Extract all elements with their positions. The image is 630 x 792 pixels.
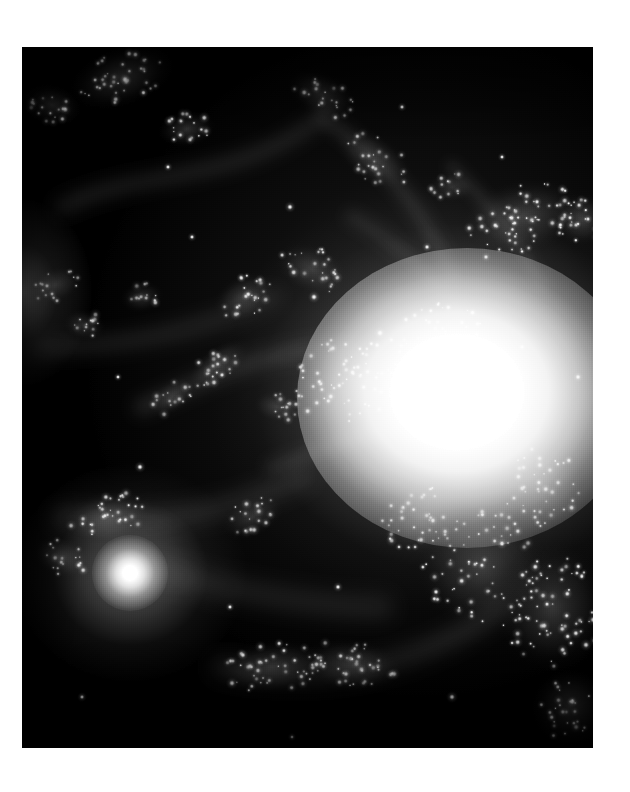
cluster-star-halo	[327, 280, 336, 289]
cluster-star-halo	[455, 574, 469, 588]
cluster-star	[247, 663, 253, 669]
cluster-star-halo	[26, 96, 39, 109]
cluster-star	[130, 524, 133, 527]
cluster-star	[560, 709, 566, 715]
cluster-star-halo	[213, 351, 224, 362]
cluster-star-halo	[515, 600, 523, 608]
cluster-star-halo	[231, 352, 239, 360]
cluster-star-halo	[527, 587, 535, 595]
cluster-star-halo	[349, 657, 363, 671]
cluster-star-halo	[317, 657, 325, 665]
cluster-star-halo	[123, 47, 136, 60]
cluster-star-halo	[482, 585, 494, 597]
cluster-star-halo	[565, 219, 576, 230]
cluster-star-halo	[222, 657, 233, 668]
cluster-star	[283, 669, 289, 675]
cluster-star-halo	[73, 555, 78, 560]
cluster-star	[301, 89, 307, 95]
cluster-star-halo	[443, 596, 452, 605]
cluster-star	[316, 250, 320, 254]
cluster-star	[90, 529, 95, 534]
cluster-star	[188, 385, 192, 389]
cluster-star	[337, 679, 343, 685]
star-cluster	[155, 107, 219, 152]
cluster-star-halo	[283, 397, 296, 410]
cluster-star	[524, 570, 528, 574]
cluster-star-halo	[351, 162, 365, 176]
cluster-star	[508, 238, 512, 242]
cluster-star	[155, 398, 159, 402]
cluster-star-halo	[571, 199, 577, 205]
cluster-star	[100, 502, 104, 506]
cluster-star-halo	[96, 503, 102, 509]
cluster-star	[269, 498, 273, 502]
cluster-star	[41, 289, 44, 292]
cluster-star-halo	[566, 697, 575, 706]
cluster-star-halo	[451, 586, 457, 592]
cluster-star-halo	[569, 627, 582, 640]
cluster-star-halo	[90, 75, 100, 85]
cluster-star	[527, 578, 532, 583]
cluster-star	[479, 563, 484, 568]
cluster-star-halo	[275, 412, 283, 420]
cluster-star-halo	[42, 291, 50, 299]
cluster-star-halo	[374, 134, 381, 141]
cluster-star-halo	[464, 557, 473, 566]
cluster-star-halo	[503, 230, 508, 235]
cluster-star-halo	[32, 281, 41, 290]
cluster-star	[75, 284, 78, 287]
cluster-star	[51, 546, 54, 549]
cluster-star-halo	[179, 398, 186, 405]
cluster-star-halo	[147, 398, 160, 411]
cluster-star-halo	[529, 560, 543, 574]
cluster-star	[74, 324, 77, 327]
cluster-star	[96, 61, 101, 66]
cluster-star-halo	[591, 683, 593, 693]
cluster-star-halo	[530, 219, 535, 224]
cluster-star-halo	[542, 182, 547, 187]
cluster-star	[520, 249, 524, 253]
cluster-star-halo	[545, 201, 554, 210]
cluster-star	[509, 216, 512, 219]
cluster-star	[137, 297, 141, 301]
cluster-star	[336, 106, 339, 109]
cluster-star	[215, 352, 220, 357]
cluster-star	[567, 588, 570, 591]
cluster-star-halo	[242, 288, 255, 301]
cluster-star-halo	[474, 560, 480, 566]
cluster-glow	[277, 56, 368, 133]
cluster-star-halo	[33, 294, 42, 303]
cluster-star-halo	[328, 267, 339, 278]
cluster-star-halo	[114, 516, 125, 527]
cluster-star-halo	[118, 72, 132, 86]
cluster-star-halo	[560, 212, 569, 221]
cluster-star	[205, 381, 210, 386]
cluster-star	[570, 204, 573, 207]
cluster-star	[126, 51, 132, 57]
cluster-star	[579, 629, 583, 633]
cluster-star	[348, 107, 353, 112]
cluster-star	[334, 274, 340, 280]
cluster-star	[521, 544, 527, 550]
cluster-star	[438, 195, 443, 200]
cluster-glow	[212, 484, 292, 551]
cluster-star	[227, 367, 231, 371]
cluster-star	[101, 514, 106, 519]
cluster-star	[120, 62, 125, 67]
cluster-star-halo	[437, 180, 447, 190]
cluster-star	[551, 603, 554, 606]
cluster-star	[376, 136, 379, 139]
cluster-star	[252, 674, 255, 677]
cluster-star-halo	[467, 232, 474, 239]
cluster-star-halo	[430, 586, 442, 598]
cluster-star-halo	[543, 630, 553, 640]
cluster-star-halo	[163, 115, 176, 128]
cluster-glow	[155, 107, 219, 152]
cluster-star-halo	[564, 555, 571, 562]
cluster-star	[268, 283, 271, 286]
cluster-star	[80, 567, 86, 573]
cluster-star	[52, 566, 55, 569]
cluster-star	[91, 327, 96, 332]
cluster-star-halo	[426, 184, 437, 195]
cluster-star	[587, 695, 590, 698]
